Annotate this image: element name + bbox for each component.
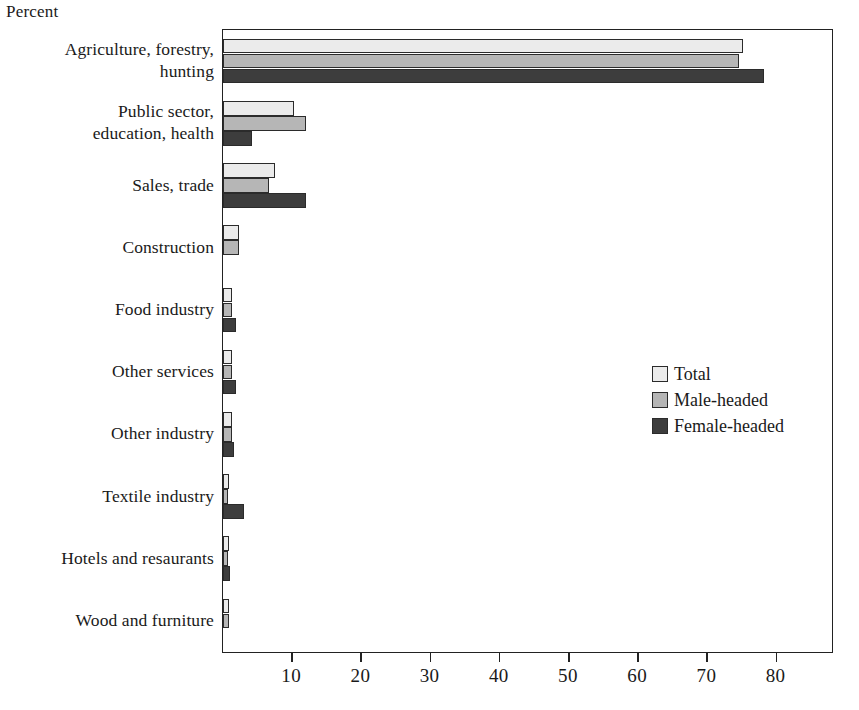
bar-male-headed — [223, 365, 232, 380]
category-label-line: education, health — [0, 122, 214, 144]
category-label: Agriculture, forestry,hunting — [0, 38, 214, 82]
bar-total — [223, 599, 229, 614]
category-label: Food industry — [0, 298, 214, 320]
x-axis-tick — [706, 653, 708, 662]
chart-legend: TotalMale-headedFemale-headed — [652, 361, 842, 439]
category-label: Textile industry — [0, 485, 214, 507]
legend-item: Female-headed — [652, 413, 842, 439]
bar-total — [223, 101, 294, 116]
bar-total — [223, 412, 232, 427]
category-label-line: Wood and furniture — [76, 610, 214, 630]
bar-total — [223, 536, 229, 551]
x-axis-tick — [499, 653, 501, 662]
bar-male-headed — [223, 614, 229, 629]
category-axis: Agriculture, forestry,huntingPublic sect… — [0, 29, 214, 653]
legend-swatch-icon — [652, 418, 668, 434]
bar-chart: Percent Agriculture, forestry,huntingPub… — [0, 0, 859, 710]
legend-label: Total — [674, 363, 711, 385]
category-label-line: Hotels and resaurants — [61, 548, 214, 568]
bar-female-headed — [223, 504, 244, 519]
legend-label: Male-headed — [674, 389, 768, 411]
x-axis-tick-label: 40 — [489, 664, 509, 688]
category-label-line: Textile industry — [102, 486, 214, 506]
bar-male-headed — [223, 116, 306, 131]
x-axis-tick — [430, 653, 432, 662]
category-label-line: Other services — [112, 361, 214, 381]
bar-total — [223, 39, 743, 54]
x-axis-tick-label: 30 — [420, 664, 440, 688]
bar-female-headed — [223, 380, 236, 395]
category-label: Hotels and resaurants — [0, 547, 214, 569]
x-axis-tick-label: 50 — [558, 664, 578, 688]
legend-item: Male-headed — [652, 387, 842, 413]
bar-male-headed — [223, 240, 239, 255]
category-label: Other industry — [0, 422, 214, 444]
category-label-line: hunting — [0, 60, 214, 82]
bar-female-headed — [223, 442, 234, 457]
category-label-line: Sales, trade — [132, 175, 214, 195]
x-axis-tick — [637, 653, 639, 662]
category-label-line: Public sector, — [118, 101, 214, 121]
bar-female-headed — [223, 193, 306, 208]
bar-male-headed — [223, 427, 232, 442]
category-label: Public sector,education, health — [0, 100, 214, 144]
category-label-line: Other industry — [111, 423, 214, 443]
bar-total — [223, 288, 232, 303]
bar-total — [223, 225, 239, 240]
axis-caption-percent: Percent — [6, 2, 58, 22]
category-label-line: Agriculture, forestry, — [65, 39, 214, 59]
bars-layer — [223, 30, 832, 652]
category-label-line: Construction — [122, 237, 214, 257]
x-axis-tick — [776, 653, 778, 662]
x-axis-tick-label: 20 — [351, 664, 371, 688]
legend-swatch-icon — [652, 366, 668, 382]
x-axis-tick-label: 60 — [627, 664, 647, 688]
category-label: Other services — [0, 360, 214, 382]
legend-label: Female-headed — [674, 415, 784, 437]
legend-item: Total — [652, 361, 842, 387]
bar-total — [223, 474, 229, 489]
x-axis-tick-label: 80 — [766, 664, 786, 688]
category-label-line: Food industry — [115, 299, 214, 319]
category-label: Sales, trade — [0, 174, 214, 196]
bar-male-headed — [223, 178, 269, 193]
bar-total — [223, 163, 275, 178]
bar-total — [223, 350, 232, 365]
bar-female-headed — [223, 69, 764, 84]
bar-female-headed — [223, 318, 236, 333]
bar-male-headed — [223, 489, 228, 504]
legend-swatch-icon — [652, 392, 668, 408]
x-axis-tick-label: 10 — [281, 664, 301, 688]
bar-male-headed — [223, 551, 228, 566]
x-axis-tick-label: 70 — [697, 664, 717, 688]
x-axis: 1020304050607080 — [222, 653, 833, 703]
bar-female-headed — [223, 131, 252, 146]
x-axis-tick — [291, 653, 293, 662]
x-axis-tick — [568, 653, 570, 662]
x-axis-tick — [360, 653, 362, 662]
bar-male-headed — [223, 303, 232, 318]
category-label: Wood and furniture — [0, 609, 214, 631]
bar-male-headed — [223, 54, 739, 69]
category-label: Construction — [0, 236, 214, 258]
bar-female-headed — [223, 566, 230, 581]
